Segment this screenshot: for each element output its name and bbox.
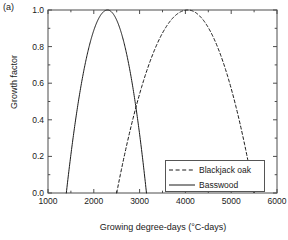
figure-panel: (a) Growth factor Growing degree-days (°…	[0, 0, 288, 240]
curve-basswood	[66, 10, 146, 193]
plot-area	[0, 0, 288, 240]
legend: Blackjack oak Basswood	[165, 160, 265, 192]
legend-item-basswood: Basswood	[166, 177, 264, 192]
legend-label: Blackjack oak	[199, 165, 251, 175]
legend-label: Basswood	[199, 180, 238, 190]
legend-sample-solid-icon	[169, 180, 195, 190]
legend-item-blackjack-oak: Blackjack oak	[166, 162, 264, 177]
legend-sample-dashed-icon	[169, 165, 195, 175]
